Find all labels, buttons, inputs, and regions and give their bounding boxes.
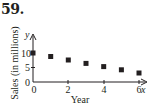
data-points [31,51,142,76]
data-point [84,61,89,66]
data-point [101,64,106,69]
x-axis-title: Year [71,94,90,105]
data-point [48,54,53,59]
data-point [31,51,36,56]
x-axis-variable: x [140,84,146,95]
data-point [137,71,142,76]
svg-text:2: 2 [66,84,71,95]
svg-text:10: 10 [21,48,31,59]
svg-text:0: 0 [25,77,30,88]
data-point [66,58,71,63]
svg-text:4: 4 [102,84,107,95]
svg-text:0: 0 [32,84,37,95]
y-tick-labels: 0 5 10 [21,48,31,88]
scatter-chart: 0 2 4 6 0 5 10 y x Year Sales (in millio… [0,0,159,109]
svg-text:5: 5 [25,62,30,73]
data-point [119,67,124,72]
y-axis-title: Sales (in millions) [9,26,21,99]
y-axis-variable: y [24,29,30,40]
